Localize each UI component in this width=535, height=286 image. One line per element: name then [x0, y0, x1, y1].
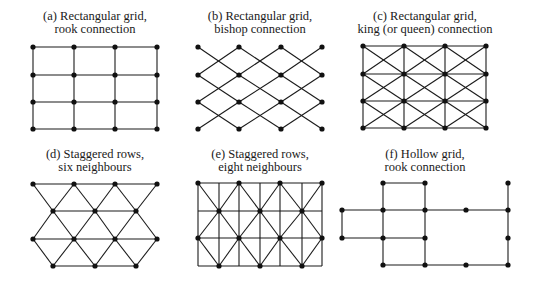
node	[236, 72, 241, 77]
node	[92, 263, 97, 268]
node	[195, 180, 200, 185]
panel-c-title-line1: (c) Rectangular grid,	[373, 9, 477, 23]
node	[30, 181, 35, 186]
node	[30, 236, 35, 241]
panel-c: (c) Rectangular grid, king (or queen) co…	[357, 9, 493, 131]
node	[339, 235, 344, 240]
node	[505, 207, 510, 212]
panel-c-title-line2: king (or queen) connection	[357, 22, 493, 36]
node	[483, 43, 488, 48]
edge	[95, 184, 115, 211]
edge	[219, 238, 239, 266]
node	[50, 208, 55, 213]
edge	[33, 211, 53, 239]
node	[112, 126, 117, 131]
node	[422, 235, 427, 240]
node	[422, 262, 427, 267]
edge	[53, 239, 74, 266]
edge	[219, 211, 239, 238]
panel-f-graph	[339, 180, 510, 267]
node	[154, 44, 159, 49]
node	[380, 262, 385, 267]
edge	[115, 239, 136, 266]
node	[360, 43, 365, 48]
edge	[198, 183, 219, 211]
node	[236, 44, 241, 49]
node	[154, 181, 159, 186]
node	[442, 98, 447, 103]
node	[442, 43, 447, 48]
node	[236, 126, 241, 131]
node	[422, 180, 427, 185]
node	[92, 208, 97, 213]
node	[195, 99, 200, 104]
node	[319, 126, 324, 131]
panel-d-title-line2: six neighbours	[58, 160, 131, 174]
node	[380, 207, 385, 212]
node	[401, 125, 406, 130]
edge	[239, 238, 260, 266]
node	[319, 72, 324, 77]
edge	[280, 183, 302, 211]
node	[71, 99, 76, 104]
edge	[280, 238, 302, 266]
node	[360, 125, 365, 130]
node	[195, 235, 200, 240]
panel-f-title-line1: (f) Hollow grid,	[385, 147, 465, 161]
node	[195, 44, 200, 49]
edge	[280, 211, 302, 238]
node	[463, 262, 468, 267]
panel-a-graph	[30, 44, 159, 131]
node	[505, 180, 510, 185]
node	[299, 263, 304, 268]
edge	[219, 183, 239, 211]
node	[154, 126, 159, 131]
node	[154, 236, 159, 241]
panel-d-title-line1: (d) Staggered rows,	[46, 147, 144, 161]
node	[401, 71, 406, 76]
node	[30, 126, 35, 131]
node	[71, 72, 76, 77]
edge	[33, 239, 53, 266]
node	[216, 263, 221, 268]
node	[112, 181, 117, 186]
node	[71, 181, 76, 186]
edge	[95, 211, 115, 239]
node	[195, 126, 200, 131]
node	[278, 99, 283, 104]
edge	[198, 211, 219, 238]
node	[483, 71, 488, 76]
panel-a-title-line2: rook connection	[55, 22, 137, 36]
node	[133, 263, 138, 268]
node	[112, 44, 117, 49]
node	[278, 72, 283, 77]
node	[112, 236, 117, 241]
node	[339, 207, 344, 212]
panel-f: (f) Hollow grid, rook connection	[339, 147, 510, 268]
node	[278, 44, 283, 49]
panel-d: (d) Staggered rows, six neighbours	[30, 147, 159, 269]
node	[319, 99, 324, 104]
edge	[302, 183, 322, 211]
node	[133, 208, 138, 213]
node	[236, 235, 241, 240]
node	[277, 235, 282, 240]
panel-e: (e) Staggered rows, eight neighbours	[195, 147, 324, 269]
edge	[74, 211, 95, 239]
node	[30, 99, 35, 104]
node	[380, 235, 385, 240]
panel-b-title-line1: (b) Rectangular grid,	[208, 9, 312, 23]
node	[442, 71, 447, 76]
node	[483, 98, 488, 103]
node	[236, 99, 241, 104]
node	[195, 72, 200, 77]
grid-connectivity-figure: (a) Rectangular grid, rook connection (b…	[0, 0, 535, 286]
edge	[239, 211, 260, 238]
node	[50, 263, 55, 268]
panel-d-graph	[30, 181, 159, 268]
edge	[302, 238, 322, 266]
node	[277, 180, 282, 185]
node	[360, 71, 365, 76]
edge	[33, 184, 53, 211]
node	[401, 43, 406, 48]
